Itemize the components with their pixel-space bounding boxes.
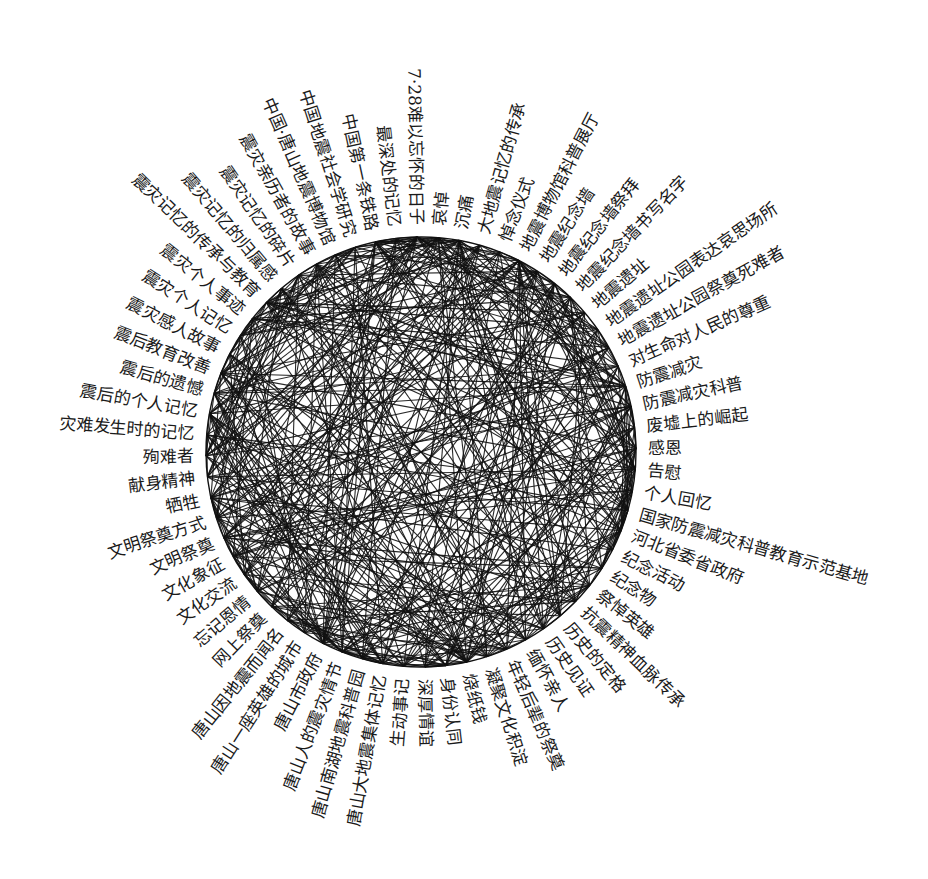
node-label: 沉痛 (452, 193, 478, 230)
node-label: 7·28难以忘怀的日子 (404, 68, 427, 225)
node-label: 深厚情谊 (415, 679, 436, 747)
node-label: 感恩 (648, 437, 682, 458)
network-edges (206, 237, 636, 667)
co-occurrence-network-diagram: 7·28难以忘怀的日子哀悼沉痛大地震记忆的传承悼念仪式地震博物馆科普展厅地震纪念… (0, 0, 928, 879)
node-label: 生动事记 (387, 677, 412, 746)
node-label: 身份认同 (437, 676, 465, 746)
node-label: 告慰 (646, 460, 682, 483)
node-label: 殉难者 (143, 446, 194, 467)
node-label: 哀悼 (429, 191, 452, 227)
